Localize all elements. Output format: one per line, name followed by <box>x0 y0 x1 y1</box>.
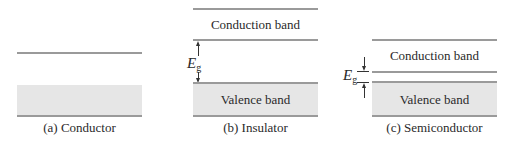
gap-tick-top <box>357 71 369 72</box>
insulator-valence-band-label: Valence band <box>193 92 318 108</box>
semiconductor-valence-bottom-line <box>372 115 497 117</box>
insulator-gap-label: Eg <box>187 55 201 73</box>
insulator-valence-top-line <box>193 82 318 84</box>
semiconductor-valence-top-line <box>372 81 497 83</box>
insulator-conduction-bottom-line <box>193 39 318 41</box>
conductor-top-line <box>17 52 142 54</box>
semiconductor-gap-label: Eg <box>343 67 357 85</box>
gap-arrow-shaft <box>364 57 365 66</box>
insulator-conduction-band-label: Conduction band <box>193 17 318 33</box>
insulator-valence-bottom-line <box>193 115 318 117</box>
insulator-caption: (b) Insulator <box>193 120 318 136</box>
semiconductor-conduction-bottom-line <box>372 71 497 73</box>
conductor-filled-band <box>17 85 142 116</box>
semiconductor-valence-band-label: Valence band <box>372 92 497 108</box>
insulator-conduction-top-line <box>193 8 318 10</box>
semiconductor-conduction-band-label: Conduction band <box>372 48 497 64</box>
semiconductor-caption: (c) Semiconductor <box>372 120 497 136</box>
conductor-caption: (a) Conductor <box>17 120 142 136</box>
conductor-bottom-line <box>17 115 142 117</box>
semiconductor-conduction-top-line <box>372 39 497 41</box>
gap-arrow-shaft <box>364 88 365 98</box>
